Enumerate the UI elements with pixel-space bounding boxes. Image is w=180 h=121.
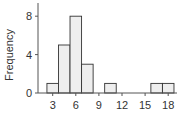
- histogram-bar: [105, 83, 117, 93]
- chart-svg: 048369121518 Frequency: [0, 0, 180, 121]
- x-tick-label: 12: [116, 99, 128, 111]
- histogram-bar: [47, 83, 59, 93]
- histogram-bar: [162, 83, 174, 93]
- x-tick-label: 9: [96, 99, 102, 111]
- y-axis-label: Frequency: [3, 29, 15, 81]
- y-tick-label: 8: [26, 10, 32, 22]
- x-tick-label: 15: [139, 99, 151, 111]
- histogram-bar: [70, 16, 82, 93]
- histogram-bars: [47, 16, 174, 93]
- y-tick-label: 4: [26, 49, 32, 61]
- x-tick-label: 6: [73, 99, 79, 111]
- histogram-chart: 048369121518 Frequency: [0, 0, 180, 121]
- x-tick-label: 3: [50, 99, 56, 111]
- x-tick-label: 18: [162, 99, 174, 111]
- y-tick-label: 0: [26, 87, 32, 99]
- axes: 048369121518: [26, 3, 177, 111]
- histogram-bar: [82, 64, 94, 93]
- histogram-bar: [151, 83, 163, 93]
- histogram-bar: [58, 45, 70, 93]
